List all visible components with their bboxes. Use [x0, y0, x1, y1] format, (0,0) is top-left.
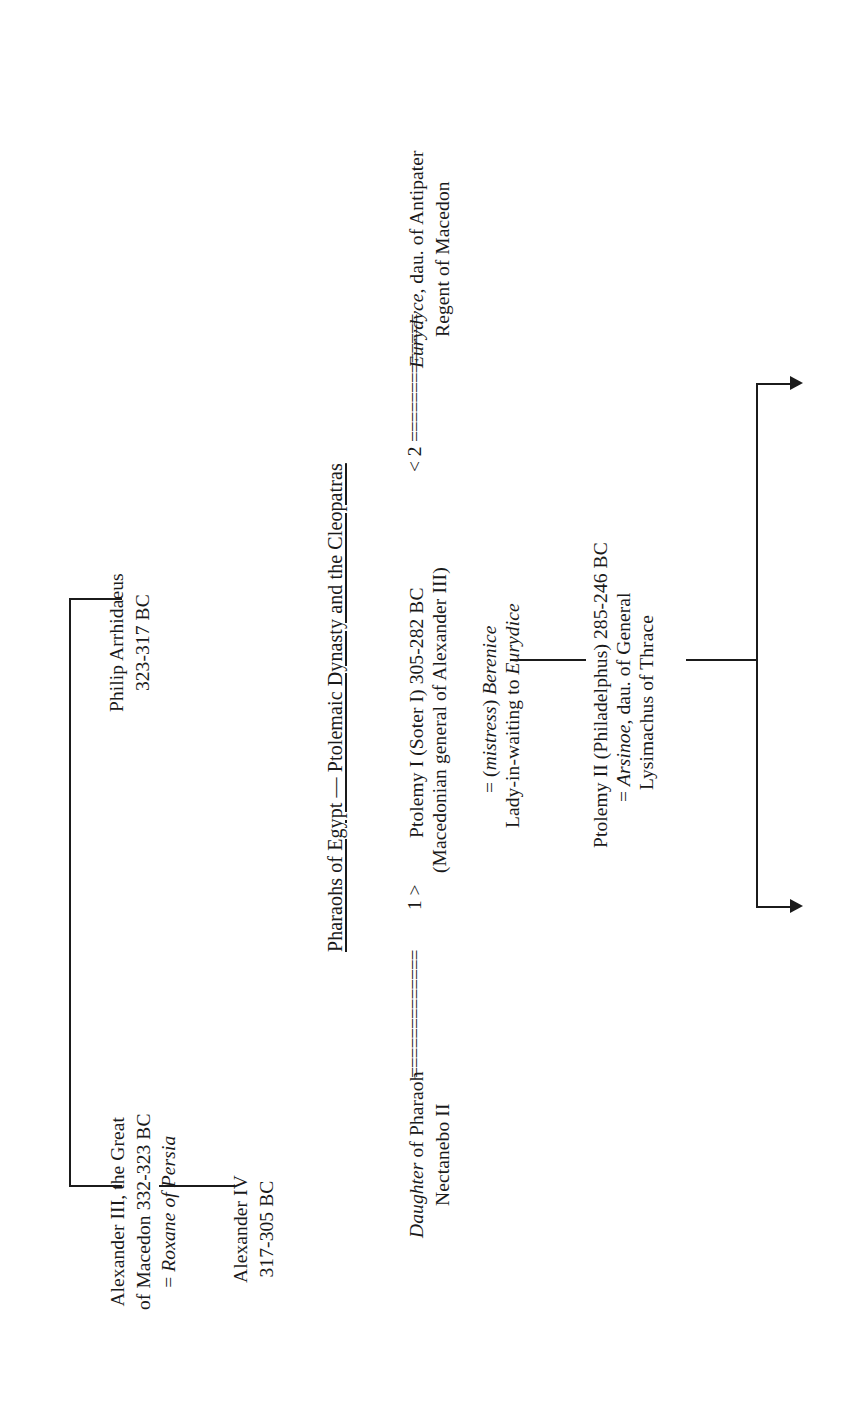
alexander-iii-spouse-prefix: = [158, 1272, 179, 1288]
marriage-marker-one: 1 > [404, 884, 426, 910]
alexander-iii-spouse: Roxane of Persia [158, 1136, 179, 1272]
philip-arrhidaeus-reign: 323-317 BC [132, 594, 153, 691]
alexander-iii-name: Alexander III, the Great [107, 1117, 128, 1307]
berenice-paren-close: ) [479, 695, 500, 707]
ptolemy-i-name: Ptolemy I (Soter I) 305-282 BC [406, 587, 427, 838]
person-daughter-of-pharaoh: Daughter of Pharaoh Nectanebo II [404, 1071, 455, 1238]
descent-line-alexander-iv [159, 1185, 235, 1187]
berenice-name: Berenice [479, 625, 500, 694]
bracket-arm-philip [69, 598, 122, 600]
ptolemy-ii-spouse-rest: , dau. of General [613, 592, 634, 724]
eurydyce-line2: Regent of Macedon [432, 181, 453, 336]
berenice-role-prefix: Lady-in-waiting to [502, 674, 523, 828]
genealogy-chart-page: Pharaohs of Egypt — Ptolemaic Dynasty an… [0, 0, 862, 1425]
daughter-rest: of Pharaoh [406, 1071, 427, 1162]
daughter-italic-word: Daughter [406, 1162, 427, 1238]
page-title: Pharaohs of Egypt — Ptolemaic Dynasty an… [322, 463, 348, 952]
continuation-arrow-lower [790, 899, 803, 913]
person-ptolemy-ii: Ptolemy II (Philadelphus) 285-246 BC [588, 542, 614, 848]
berenice-prefix: = ( [479, 770, 500, 793]
continuation-bracket-vertical [756, 383, 758, 908]
alexander-iv-reign: 317-305 BC [256, 1181, 277, 1278]
lysimachus-line: Lysimachus of Thrace [636, 615, 657, 790]
philip-arrhidaeus-name: Philip Arrhidaeus [106, 573, 127, 712]
marriage-rule-wife-one: ============= [404, 951, 426, 1078]
ptolemy-ii-spouse: = Arsinoe, dau. of General [611, 592, 637, 802]
continuation-arm-lower [756, 906, 790, 908]
continuation-arrow-upper [790, 376, 803, 390]
person-philip-arrhidaeus: Philip Arrhidaeus 323-317 BC [104, 573, 155, 712]
nectanebo-line: Nectanebo II [432, 1104, 453, 1206]
person-ptolemy-i: Ptolemy I (Soter I) 305-282 BC [404, 587, 430, 838]
marriage-marker-two: < 2 [404, 446, 426, 472]
ptolemy-i-descriptor-text: (Macedonian general of Alexander III) [429, 567, 450, 873]
eurydyce-rest: , dau. of Antipater [406, 150, 427, 293]
alexander-iii-reign: of Macedon 332-323 BC [133, 1113, 154, 1310]
marriage-rule-wife-two: ============= [404, 315, 426, 442]
ptolemy-ii-name: Ptolemy II (Philadelphus) 285-246 BC [590, 542, 611, 848]
bracket-arm-alexander [69, 1185, 122, 1187]
continuation-arm-upper [756, 383, 790, 385]
person-alexander-iv: Alexander IV 317-305 BC [228, 1175, 279, 1283]
person-alexander-iii: Alexander III, the Great of Macedon 332-… [105, 1113, 182, 1310]
ptolemy-ii-spouse-name: Arsinoe [613, 725, 634, 786]
bracket-vertical-alexander-philip [69, 598, 71, 1187]
berenice-mistress-label: mistress [479, 706, 500, 770]
person-berenice-mistress: = (mistress) Berenice [477, 625, 503, 793]
alexander-iv-name: Alexander IV [230, 1175, 251, 1283]
ptolemy-ii-spouse-father: Lysimachus of Thrace [634, 615, 660, 790]
ptolemy-ii-spouse-prefix: = [613, 786, 634, 802]
descent-line-ptolemy-ii [510, 659, 586, 661]
berenice-role: Lady-in-waiting to Eurydice [500, 603, 526, 828]
continuation-stem [686, 659, 758, 661]
berenice-role-eurydice: Eurydice [502, 603, 523, 674]
person-ptolemy-i-descriptor: (Macedonian general of Alexander III) [427, 567, 453, 873]
